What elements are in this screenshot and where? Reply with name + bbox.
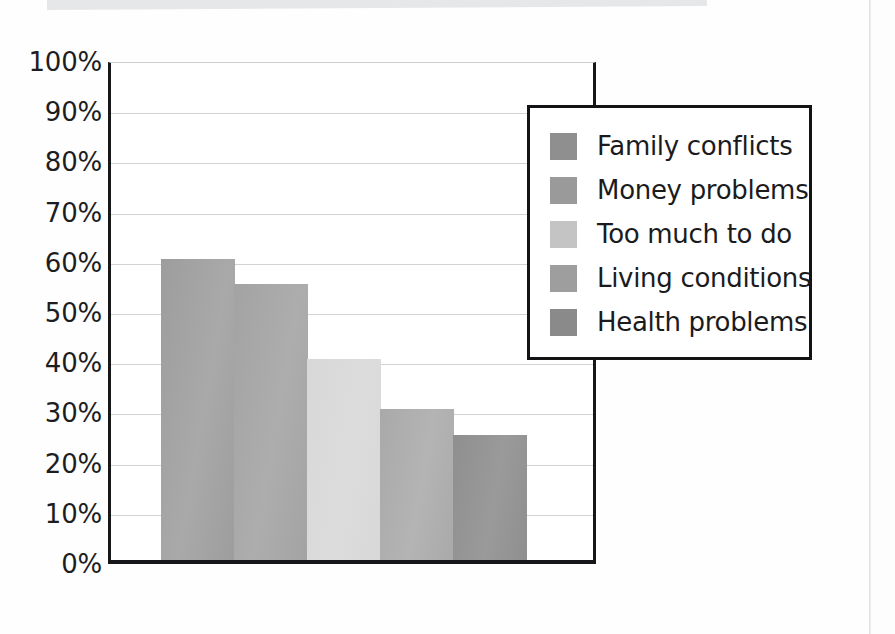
y-axis-labels: 100%90%80%70%60%50%40%30%20%10%0% — [4, 62, 102, 564]
legend-swatch-icon — [550, 177, 577, 204]
bar-health-problems[interactable] — [453, 435, 527, 561]
legend-item[interactable]: Living conditions — [530, 256, 809, 300]
y-axis-tick-label: 90% — [10, 99, 102, 125]
chart-legend: Family conflictsMoney problemsToo much t… — [527, 105, 812, 360]
y-axis-tick-label: 100% — [10, 49, 102, 75]
y-axis-tick-label: 30% — [10, 400, 102, 426]
legend-swatch-icon — [550, 309, 577, 336]
bar-family-conflicts[interactable] — [161, 259, 235, 560]
legend-item-label: Too much to do — [597, 220, 792, 248]
y-axis-tick-label: 40% — [10, 350, 102, 376]
y-axis-tick-label: 20% — [10, 451, 102, 477]
y-axis-tick-label: 80% — [10, 149, 102, 175]
page-edge-margin — [871, 0, 895, 634]
legend-swatch-icon — [550, 133, 577, 160]
legend-item[interactable]: Health problems — [530, 300, 809, 344]
bar-series — [111, 63, 593, 560]
y-axis-tick-label: 0% — [10, 551, 102, 577]
y-axis-tick-label: 60% — [10, 250, 102, 276]
bar-too-much-to-do[interactable] — [307, 359, 381, 560]
scanned-page: 100%90%80%70%60%50%40%30%20%10%0% Family… — [0, 0, 895, 634]
plot-area — [108, 62, 596, 564]
legend-item-label: Money problems — [597, 176, 808, 204]
legend-item-label: Health problems — [597, 308, 807, 336]
legend-item[interactable]: Too much to do — [530, 212, 809, 256]
bar-money-problems[interactable] — [234, 284, 308, 560]
legend-item[interactable]: Family conflicts — [530, 124, 809, 168]
y-axis-tick-label: 70% — [10, 200, 102, 226]
y-axis-tick-label: 10% — [10, 501, 102, 527]
bar-living-conditions[interactable] — [380, 409, 454, 560]
legend-swatch-icon — [550, 265, 577, 292]
y-axis-tick-label: 50% — [10, 300, 102, 326]
legend-swatch-icon — [550, 221, 577, 248]
legend-item-label: Family conflicts — [597, 132, 792, 160]
legend-item-label: Living conditions — [597, 264, 811, 292]
bar-chart: 100%90%80%70%60%50%40%30%20%10%0% Family… — [0, 0, 895, 634]
legend-item[interactable]: Money problems — [530, 168, 809, 212]
